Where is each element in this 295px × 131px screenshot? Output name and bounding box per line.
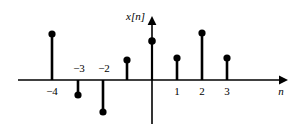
stem-n-3 — [223, 54, 230, 80]
stem-plot-canvas: −4 −3 −2 1 2 3 x[n] n — [0, 0, 295, 131]
stem-n-0 — [148, 37, 156, 80]
y-axis-arrowhead-icon — [148, 16, 157, 25]
stem-n-1 — [173, 54, 180, 80]
stem-plot-figure: −4 −3 −2 1 2 3 x[n] n — [0, 0, 295, 131]
stem-marker-n-minus4 — [48, 30, 55, 37]
stem-n-2 — [198, 29, 205, 80]
tick-label-1: 1 — [174, 85, 180, 97]
stem-marker-n-minus2 — [99, 108, 106, 115]
tick-label-minus2: −2 — [98, 62, 110, 74]
stem-marker-n-1 — [173, 54, 180, 61]
stem-marker-n-2 — [198, 29, 205, 36]
stem-marker-n-3 — [223, 54, 230, 61]
tick-label-2: 2 — [199, 85, 205, 97]
stem-n-minus3 — [74, 80, 81, 99]
tick-label-minus3: −3 — [73, 62, 85, 74]
tick-label-minus4: −4 — [46, 85, 58, 97]
y-axis-title: x[n] — [125, 10, 145, 22]
stem-marker-n-0 — [148, 37, 156, 45]
x-axis-title: n — [278, 85, 284, 97]
x-axis-arrowhead-icon — [279, 76, 288, 85]
stem-marker-n-minus1 — [123, 56, 130, 63]
stem-n-minus4 — [48, 30, 55, 80]
stem-n-minus2 — [99, 80, 106, 116]
tick-label-3: 3 — [224, 85, 230, 97]
stem-n-minus1 — [123, 56, 130, 80]
stem-marker-n-minus3 — [74, 91, 81, 98]
